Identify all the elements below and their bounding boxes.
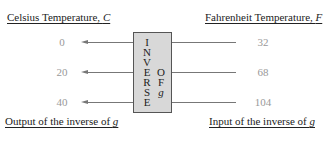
inverse-label: I N V E R S E xyxy=(142,37,152,107)
arrow-line xyxy=(86,72,133,73)
output-value: 20 xyxy=(47,66,77,78)
celsius-var: C xyxy=(103,11,110,23)
output-value: 0 xyxy=(47,36,77,48)
input-footer-var: g xyxy=(310,115,316,127)
letter: g xyxy=(156,87,166,97)
output-footer: Output of the inverse of g xyxy=(5,115,118,127)
celsius-header: Celsius Temperature, C xyxy=(7,11,110,23)
arrow-line xyxy=(86,42,133,43)
output-value: 40 xyxy=(47,96,77,108)
output-footer-text: Output of the inverse of xyxy=(5,115,113,127)
arrow-line xyxy=(86,102,133,103)
input-value: 68 xyxy=(248,66,278,78)
input-line xyxy=(172,42,236,43)
celsius-header-text: Celsius Temperature, xyxy=(7,11,103,23)
fahrenheit-var: F xyxy=(316,11,323,23)
input-value: 104 xyxy=(248,96,278,108)
inverse-function-box: I N V E R S E O F g xyxy=(133,32,172,113)
fahrenheit-header: Fahrenheit Temperature, F xyxy=(205,11,322,23)
of-g-label: O F g xyxy=(156,67,166,97)
input-line xyxy=(172,72,236,73)
fahrenheit-header-text: Fahrenheit Temperature, xyxy=(205,11,316,23)
input-footer-text: Input of the inverse of xyxy=(209,115,310,127)
input-footer: Input of the inverse of g xyxy=(209,115,315,127)
letter: E xyxy=(142,97,152,107)
input-value: 32 xyxy=(248,36,278,48)
input-line xyxy=(172,102,236,103)
output-footer-var: g xyxy=(113,115,119,127)
